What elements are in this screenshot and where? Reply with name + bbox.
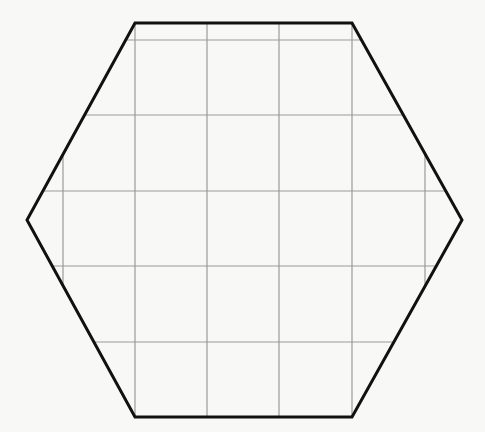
hexagon-grid-diagram xyxy=(0,0,485,432)
hexagon-outline xyxy=(27,23,462,417)
diagram-canvas xyxy=(0,0,485,432)
grid-lines xyxy=(0,0,485,432)
